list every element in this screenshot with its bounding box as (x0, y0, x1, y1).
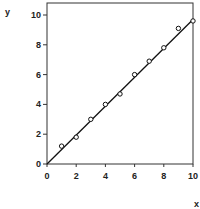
data-point (103, 102, 107, 106)
y-axis-label: y (5, 7, 10, 17)
y-tick-label: 8 (36, 40, 41, 50)
y-tick-label: 10 (31, 10, 41, 20)
x-tick-label: 6 (132, 171, 137, 181)
data-point (89, 117, 93, 121)
data-point (162, 46, 166, 50)
x-axis-ticks: 0246810 (44, 164, 198, 181)
data-point (59, 144, 63, 148)
data-point (191, 19, 195, 23)
data-point (176, 26, 180, 30)
x-tick-label: 10 (188, 171, 198, 181)
y-tick-label: 0 (36, 159, 41, 169)
y-tick-label: 6 (36, 70, 41, 80)
data-point (132, 72, 136, 76)
x-axis-label: x (194, 199, 199, 209)
x-tick-label: 0 (44, 171, 49, 181)
x-tick-label: 2 (74, 171, 79, 181)
x-tick-label: 8 (161, 171, 166, 181)
y-axis-ticks: 0246810 (31, 10, 47, 169)
y-tick-label: 2 (36, 129, 41, 139)
data-point (118, 92, 122, 96)
scatter-chart: 0246810 0246810 x y (0, 0, 200, 209)
x-tick-label: 4 (103, 171, 108, 181)
y-tick-label: 4 (36, 99, 41, 109)
plot-frame (47, 3, 193, 164)
data-point (147, 59, 151, 63)
data-point (74, 135, 78, 139)
